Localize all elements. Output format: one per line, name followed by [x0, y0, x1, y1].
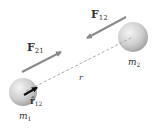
unit-vector-label: r̂12	[30, 96, 43, 107]
distance-label: r	[79, 73, 84, 82]
separation-dashed-line	[26, 37, 133, 91]
two-body-force-diagram: F21 F12 r m1 m2 r̂12	[0, 0, 158, 130]
mass-2-label: m2	[128, 57, 141, 68]
force-21-arrow-icon	[22, 52, 61, 72]
force-21-label: F21	[27, 41, 44, 55]
mass-1-label: m1	[19, 111, 31, 122]
force-12-label: F12	[91, 8, 108, 22]
